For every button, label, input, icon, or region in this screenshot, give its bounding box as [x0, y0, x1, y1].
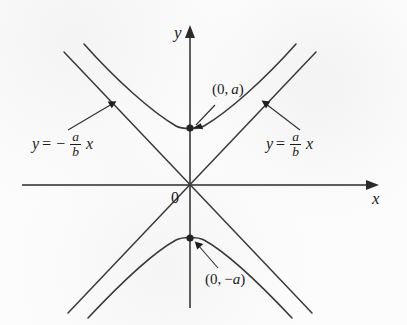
- left-asymptote-equation: y = − a b x: [32, 130, 93, 159]
- left-equation-lhs: y: [32, 136, 39, 152]
- right-equation-denominator: b: [290, 144, 301, 159]
- right-equation-fraction: a b: [290, 130, 301, 159]
- left-equation-variable: x: [86, 136, 93, 152]
- axes-group: [22, 25, 379, 308]
- left-equation-leader-line: [68, 104, 112, 130]
- x-axis-label: x: [372, 190, 380, 207]
- lower-vertex-label: (0, −a): [205, 272, 245, 287]
- left-equation-numerator: a: [70, 130, 81, 144]
- lower-vertex-label-open: (0, −: [205, 271, 233, 287]
- right-asymptote-equation: y = a b x: [266, 130, 313, 159]
- asymptote-positive-slope: [68, 52, 316, 313]
- upper-vertex-label-variable: a: [231, 81, 239, 97]
- y-axis-arrowhead: [185, 25, 195, 38]
- y-axis-label: y: [174, 24, 182, 41]
- upper-vertex-label: (0, a): [212, 82, 244, 97]
- upper-vertex-label-close: ): [239, 81, 244, 97]
- upper-vertex-label-open: (0,: [212, 81, 231, 97]
- left-equation-denominator: b: [70, 144, 81, 159]
- right-equation-equals: =: [276, 136, 285, 152]
- upper-vertex-dot: [186, 124, 193, 131]
- left-equation-sign: −: [56, 136, 65, 152]
- left-equation-fraction: a b: [70, 130, 81, 159]
- asymptote-negative-slope: [64, 52, 312, 313]
- right-equation-leader-line: [266, 104, 300, 130]
- right-equation-lhs: y: [266, 136, 273, 152]
- lower-vertex-dot: [186, 234, 193, 241]
- left-equation-leader-arrowhead: [108, 101, 117, 108]
- lower-vertex-leader-line: [198, 245, 218, 268]
- lower-vertex-label-close: ): [240, 271, 245, 287]
- origin-label: 0: [171, 190, 179, 206]
- lower-vertex-leader-arrowhead: [195, 242, 204, 250]
- left-equation-equals: =: [42, 136, 51, 152]
- hyperbola-figure: y x 0 (0, a) (0, −a) y = − a b x y = a b…: [0, 0, 407, 325]
- right-equation-variable: x: [306, 136, 313, 152]
- upper-vertex-leader-line: [196, 105, 215, 125]
- right-equation-numerator: a: [290, 130, 301, 144]
- hyperbola-canvas: [0, 0, 407, 325]
